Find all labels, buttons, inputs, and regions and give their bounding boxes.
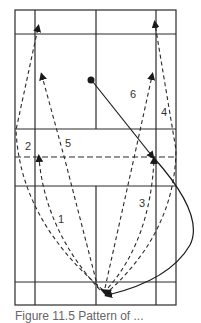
shot-6-path	[105, 76, 152, 288]
shot-1-path	[16, 28, 103, 290]
label-shot-6: 6	[130, 88, 136, 100]
label-shot-5: 5	[65, 137, 71, 149]
shot-5-path	[42, 76, 98, 288]
court-lines	[15, 10, 176, 305]
return-path	[108, 158, 193, 295]
label-shot-4: 4	[161, 106, 167, 118]
label-shot-1: 1	[58, 213, 64, 225]
figure-caption: Figure 11.5 Pattern of ...	[15, 309, 144, 323]
label-shot-2: 2	[25, 140, 31, 152]
label-shot-3: 3	[139, 197, 145, 209]
shuttle-path	[93, 82, 152, 156]
